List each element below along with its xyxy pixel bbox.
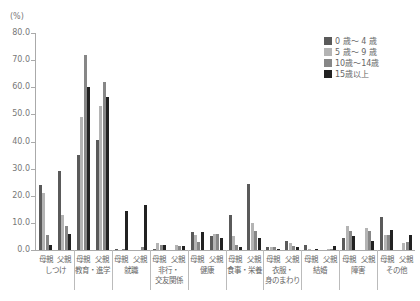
y-tick-label: 60.0 [2,82,30,91]
parent-label: 父親 [358,253,377,264]
bar [182,246,185,250]
y-axis-unit: (%) [10,12,24,21]
legend-swatch-icon [324,70,332,78]
y-tick-label: 80.0 [2,28,30,37]
parent-label: 父親 [93,253,112,264]
parent-label: 父親 [320,253,339,264]
bar [308,249,311,250]
bar [239,247,242,250]
bar [277,249,280,250]
y-tick-label: 70.0 [2,55,30,64]
bar [352,236,355,250]
category-label: 非行・ 交友関係 [150,266,188,286]
bar [315,249,318,250]
category-label: 教育・進学 [74,266,112,276]
category-label: 就職 [112,266,150,276]
bar [106,97,109,250]
parent-label: 母親 [112,253,131,264]
category-label: 衣服・ 身のまわり [263,266,301,286]
y-tick-label: 30.0 [2,164,30,173]
bar [409,235,412,250]
bar [333,246,336,250]
y-tick-label: 20.0 [2,191,30,200]
y-tick-label: 50.0 [2,109,30,118]
legend-swatch-icon [324,59,332,67]
parent-label: 父親 [131,253,150,264]
legend-swatch-icon [324,37,332,45]
bar [371,241,374,250]
parent-label: 母親 [150,253,169,264]
y-axis-line [35,33,36,250]
legend-label: 0 歳～ 4 歳 [335,35,377,46]
legend-item: 15歳以上 [324,68,379,79]
bar [220,238,223,250]
bar [125,211,128,250]
bar [258,238,261,250]
category-label: 食事・栄養 [226,266,264,276]
bar [390,230,393,250]
parent-label: 母親 [226,253,245,264]
legend-item: 10歳～14歳 [324,57,379,68]
legend-label: 15歳以上 [335,68,369,79]
bar [87,87,90,250]
parent-label: 父親 [169,253,188,264]
legend-item: 5 歳～ 9 歳 [324,46,379,57]
bar [144,205,147,250]
parent-label: 母親 [263,253,282,264]
parent-label: 母親 [301,253,320,264]
parent-label: 母親 [188,253,207,264]
parent-label: 母親 [74,253,93,264]
parent-label: 母親 [36,253,55,264]
legend-label: 10歳～14歳 [335,57,379,68]
legend-item: 0 歳～ 4 歳 [324,35,379,46]
y-tick-label: 10.0 [2,218,30,227]
bar [49,245,52,250]
parent-label: 母親 [339,253,358,264]
legend: 0 歳～ 4 歳5 歳～ 9 歳10歳～14歳15歳以上 [324,35,379,79]
parent-label: 父親 [244,253,263,264]
category-label: 障害 [339,266,377,276]
y-tick-label: 40.0 [2,137,30,146]
legend-swatch-icon [324,48,332,56]
bar [68,234,71,250]
bar [296,247,299,250]
category-label: 結婚 [301,266,339,276]
parent-label: 父親 [55,253,74,264]
y-tick-label: 0.0 [2,245,30,254]
bar [115,249,118,250]
parent-label: 父親 [282,253,301,264]
parent-label: 父親 [207,253,226,264]
bar [163,245,166,250]
parent-label: 母親 [377,253,396,264]
category-label: その他 [377,266,415,276]
category-label: 健康 [188,266,226,276]
bar [201,232,204,250]
legend-label: 5 歳～ 9 歳 [335,46,377,57]
parent-label: 父親 [396,253,415,264]
category-label: しつけ [36,266,74,276]
